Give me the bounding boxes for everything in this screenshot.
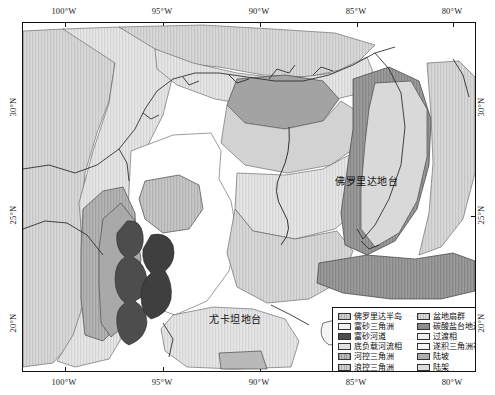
legend-swatch-wave-dominated-delta: [338, 364, 351, 371]
legend-swatch-delta-fed-fan-complex: [417, 343, 430, 350]
axis-tick-right-1: 25°N: [477, 206, 487, 225]
legend-item-river-dominated-delta: 河控三角洲: [338, 352, 410, 362]
legend-label-florida-peninsula: 佛罗里达半岛: [354, 312, 402, 321]
legend-swatch-continental-shelf: [417, 364, 430, 371]
legend-label-continental-slope: 陆坡: [433, 352, 449, 361]
legend-label-delta-fed-fan-complex: 遂积三角洲补给扇群: [433, 342, 476, 351]
legend-swatch-carbonate-platform-margin: [417, 323, 430, 330]
axis-tick-bottom-3: 85°W: [346, 377, 367, 387]
place-label-florida-platform: 佛罗里达地台: [335, 173, 398, 188]
legend-column-right: 盆地扇群 碳酸盐台地边缘 过渡相 遂积三角洲补给扇群: [417, 311, 476, 372]
legend-label-bedload-fluvial: 底负载河流相: [354, 342, 402, 351]
axis-tick-bottom-2: 90°W: [249, 377, 270, 387]
legend-swatch-sand-rich-delta: [338, 323, 351, 330]
legend-item-transitional-facies: 过渡相: [417, 331, 476, 341]
axis-tick-left-1: 25°N: [8, 206, 18, 225]
legend-item-florida-peninsula: 佛罗里达半岛: [338, 311, 410, 321]
axis-tick-left-2: 20°N: [8, 314, 18, 333]
axis-tick-left-0: 30°N: [8, 98, 18, 117]
legend-swatch-sand-rich-channel: [338, 333, 351, 340]
legend-item-sand-rich-delta: 富砂三角洲: [338, 321, 410, 331]
facies-yucatan-margin: [219, 351, 267, 369]
axis-tick-right-2: 20°N: [477, 314, 487, 333]
map-legend: 佛罗里达半岛 富砂三角洲 富砂河道 底负载河流相: [332, 307, 476, 372]
axis-tick-top-4: 80°W: [442, 6, 463, 16]
legend-label-river-dominated-delta: 河控三角洲: [354, 352, 394, 361]
legend-item-continental-shelf: 陆架: [417, 362, 476, 372]
place-label-yucatan-platform: 尤卡坦地台: [209, 311, 262, 326]
legend-swatch-transitional-facies: [417, 333, 430, 340]
facies-southeast-transition: [317, 253, 475, 299]
legend-item-delta-fed-fan-complex: 遂积三角洲补给扇群: [417, 342, 476, 352]
legend-item-wave-dominated-delta: 浪控三角洲: [338, 362, 410, 372]
axis-tick-top-0: 100°W: [51, 6, 76, 16]
legend-label-sand-rich-channel: 富砂河道: [354, 332, 386, 341]
legend-label-sand-rich-delta: 富砂三角洲: [354, 322, 394, 331]
legend-item-basin-fans: 盆地扇群: [417, 311, 476, 321]
legend-swatch-continental-slope: [417, 353, 430, 360]
map-plot-frame: 佛罗里达地台 尤卡坦地台 佛罗里达半岛 富砂三角洲 富砂河道: [22, 22, 476, 372]
axis-tick-top-1: 95°W: [152, 6, 173, 16]
legend-column-left: 佛罗里达半岛 富砂三角洲 富砂河道 底负载河流相: [338, 311, 410, 372]
legend-item-bedload-fluvial: 底负载河流相: [338, 342, 410, 352]
axis-tick-top-3: 85°W: [346, 6, 367, 16]
gulf-of-mexico-facies-map: 100°W 95°W 90°W 85°W 80°W 100°W 95°W 90°…: [0, 0, 495, 395]
axis-tick-top-2: 90°W: [249, 6, 270, 16]
legend-item-carbonate-platform-margin: 碳酸盐台地边缘: [417, 321, 476, 331]
legend-item-continental-slope: 陆坡: [417, 352, 476, 362]
legend-swatch-river-dominated-delta: [338, 353, 351, 360]
legend-item-sand-rich-channel: 富砂河道: [338, 331, 410, 341]
axis-tick-bottom-1: 95°W: [152, 377, 173, 387]
legend-swatch-bedload-fluvial: [338, 343, 351, 350]
legend-label-continental-shelf: 陆架: [433, 363, 449, 372]
legend-label-transitional-facies: 过渡相: [433, 332, 457, 341]
axis-tick-bottom-0: 100°W: [51, 377, 76, 387]
facies-florida-platform: [361, 81, 427, 247]
axis-tick-right-0: 30°N: [477, 98, 487, 117]
legend-swatch-florida-peninsula: [338, 313, 351, 320]
legend-label-wave-dominated-delta: 浪控三角洲: [354, 363, 394, 372]
facies-deepwater-complex: [115, 221, 147, 345]
legend-swatch-basin-fans: [417, 313, 430, 320]
legend-label-basin-fans: 盆地扇群: [433, 312, 465, 321]
legend-label-carbonate-platform-margin: 碳酸盐台地边缘: [433, 322, 476, 331]
axis-tick-bottom-4: 80°W: [442, 377, 463, 387]
